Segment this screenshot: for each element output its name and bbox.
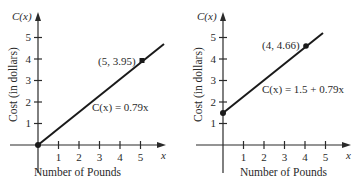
y-tick-labels: 1 2 3 4 5 [211,31,217,129]
data-point-5 [140,58,145,63]
y-tick-labels: 1 2 3 4 5 [26,31,32,129]
svg-text:1: 1 [211,117,217,129]
svg-text:3: 3 [97,151,103,163]
y-axis-arrow-icon [220,12,226,21]
equation-label: C(x) = 0.79x [92,101,149,114]
svg-text:4: 4 [26,53,32,65]
x-axis-label: Number of Pounds [34,166,121,178]
svg-text:5: 5 [211,31,217,43]
x-axis-arrow-icon [342,142,351,148]
x-axis-arrow-icon [157,142,166,148]
svg-text:4: 4 [117,151,123,163]
y-axis-name: C(x) [12,10,32,23]
svg-text:2: 2 [211,96,217,108]
x-tick-labels: 1 2 3 4 5 [241,151,329,163]
y-axis-arrow-icon [35,12,41,21]
svg-text:5: 5 [138,151,144,163]
data-point-4 [303,43,309,49]
svg-text:4: 4 [302,151,308,163]
x-axis-label: Number of Pounds [240,166,327,178]
svg-text:5: 5 [323,151,329,163]
svg-text:2: 2 [261,151,267,163]
y-axis-label: Cost (in dollars) [192,47,205,122]
svg-text:3: 3 [26,74,32,86]
svg-text:5: 5 [26,31,32,43]
equation-label: C(x) = 1.5 + 0.79x [262,83,345,96]
y-axis-label: Cost (in dollars) [7,47,20,122]
svg-text:1: 1 [26,117,32,129]
svg-text:1: 1 [56,151,62,163]
data-point-origin [35,142,41,148]
y-axis-name: C(x) [197,10,217,23]
svg-text:4: 4 [211,53,217,65]
point-label: (4, 4.66) [262,39,300,52]
svg-text:2: 2 [76,151,82,163]
x-tick-labels: 1 2 3 4 5 [56,151,144,163]
x-axis-name: x [345,149,351,161]
chart-right: 1 2 3 4 5 1 2 3 4 5 C(x) x Cost (in doll… [192,10,351,178]
svg-text:3: 3 [282,151,288,163]
svg-text:1: 1 [241,151,247,163]
svg-text:2: 2 [26,96,32,108]
x-axis-name: x [160,149,166,161]
data-point-start [220,110,226,116]
chart-left: 1 2 3 4 5 1 2 3 4 5 C(x) x Cost (in doll… [7,10,166,178]
point-label: (5, 3.95) [98,55,136,68]
svg-text:3: 3 [211,74,217,86]
